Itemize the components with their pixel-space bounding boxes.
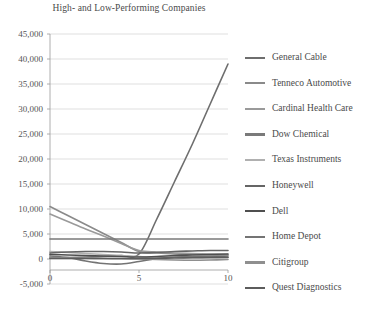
series-line — [50, 64, 228, 258]
y-tick-label: 45,000 — [18, 29, 43, 39]
y-tick-label: 5,000 — [23, 229, 44, 239]
legend-color-swatch — [245, 57, 265, 59]
legend-item[interactable]: Cardinal Health Care — [245, 96, 379, 122]
legend-color-swatch — [245, 108, 265, 110]
legend-color-swatch — [245, 287, 265, 289]
legend-item-label: Dell — [272, 207, 288, 217]
series-line — [50, 207, 228, 256]
y-tick-label: 10,000 — [18, 204, 43, 214]
x-tick-label: 0 — [48, 273, 53, 283]
legend-color-swatch — [245, 185, 265, 187]
legend-item-label: General Cable — [272, 53, 327, 63]
legend-item-label: Home Depot — [272, 232, 321, 242]
legend-color-swatch — [245, 133, 265, 135]
chart-container: High- and Low-Performing Companies -5,00… — [0, 0, 379, 310]
y-tick-label: 20,000 — [18, 154, 43, 164]
legend-item-label: Citigroup — [272, 258, 308, 268]
legend-item[interactable]: Quest Diagnostics — [245, 275, 379, 301]
y-tick-label: 40,000 — [18, 54, 43, 64]
legend-item[interactable]: Citigroup — [245, 250, 379, 276]
legend-color-swatch — [245, 236, 265, 238]
legend-item-label: Quest Diagnostics — [272, 283, 341, 293]
legend-color-swatch — [245, 210, 265, 212]
y-tick-label: 0 — [39, 254, 44, 264]
legend-item[interactable]: Dow Chemical — [245, 122, 379, 148]
y-tick-label: 15,000 — [18, 179, 43, 189]
gridlines — [50, 34, 228, 284]
legend-item-label: Tenneco Automotive — [272, 79, 351, 89]
legend-color-swatch — [245, 261, 265, 263]
y-axis-tick-labels: -5,00005,00010,00015,00020,00025,00030,0… — [18, 29, 43, 289]
legend-color-swatch — [245, 82, 265, 84]
x-tick-label: 5 — [137, 273, 142, 283]
y-tick-label: 30,000 — [18, 104, 43, 114]
legend-item[interactable]: Dell — [245, 199, 379, 225]
legend-item-label: Honeywell — [272, 181, 314, 191]
y-tick-label: -5,000 — [20, 279, 44, 289]
legend-item[interactable]: General Cable — [245, 45, 379, 71]
chart-legend: General CableTenneco AutomotiveCardinal … — [245, 45, 379, 301]
y-tick-label: 35,000 — [18, 79, 43, 89]
legend-color-swatch — [245, 159, 265, 161]
legend-item-label: Dow Chemical — [272, 130, 329, 140]
legend-item-label: Cardinal Health Care — [272, 104, 353, 114]
legend-item-label: Texas Instruments — [272, 155, 341, 165]
x-axis-tick-labels: 0510 — [48, 273, 233, 283]
legend-item[interactable]: Home Depot — [245, 224, 379, 250]
legend-item[interactable]: Tenneco Automotive — [245, 71, 379, 97]
y-tick-label: 25,000 — [18, 129, 43, 139]
x-tick-label: 10 — [224, 273, 234, 283]
legend-item[interactable]: Texas Instruments — [245, 147, 379, 173]
legend-item[interactable]: Honeywell — [245, 173, 379, 199]
